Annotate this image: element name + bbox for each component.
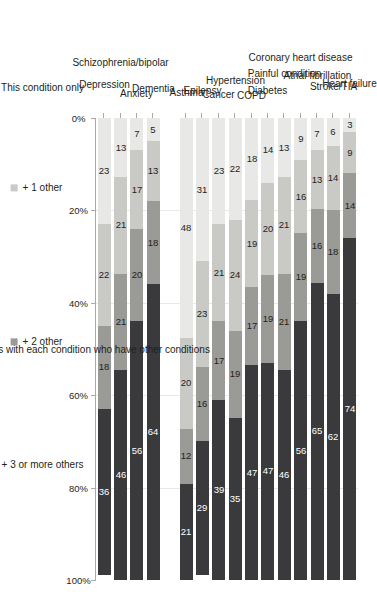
bar-value-label: 47	[246, 468, 257, 478]
bar-segment: 9	[343, 132, 356, 174]
bar-row: 6141862	[327, 118, 340, 580]
bar-value-label: 31	[197, 185, 208, 195]
legend-swatch-icon	[11, 338, 18, 345]
bar-value-label: 13	[148, 166, 159, 176]
bar-value-label: 18	[328, 247, 339, 257]
bar-segment: 19	[245, 200, 258, 287]
bar-value-label: 6	[331, 127, 336, 137]
category-tick	[349, 113, 350, 118]
bar-value-label: 29	[197, 504, 208, 514]
bar-segment: 46	[114, 370, 127, 580]
x-tick-label: 0%	[65, 113, 93, 124]
bar-segment: 48	[180, 118, 193, 338]
legend-item-2[interactable]: + 1 other	[11, 182, 63, 193]
bar-value-label: 9	[347, 148, 352, 158]
category-tick	[283, 113, 284, 118]
bar-segment: 29	[196, 441, 209, 575]
category-tick	[300, 113, 301, 118]
category-label-schizophrenia-bipolar: Schizophrenia/bipolar	[114, 0, 127, 110]
bar-value-label: 19	[230, 370, 241, 380]
bar-segment: 74	[343, 238, 356, 580]
bar-value-label: 14	[263, 146, 274, 156]
bar-row: 7131665	[311, 118, 324, 580]
bar-segment: 18	[245, 118, 258, 200]
bar-segment: 65	[311, 283, 324, 580]
bar-value-label: 46	[115, 470, 126, 480]
x-tick-label: 60%	[65, 390, 93, 401]
bar-segment: 23	[98, 118, 111, 224]
bar-segment: 18	[98, 326, 111, 409]
category-tick	[120, 113, 121, 118]
bar-segment: 13	[278, 118, 291, 177]
bar-value-label: 18	[148, 238, 159, 248]
bar-segment: 23	[212, 118, 225, 224]
bar-value-label: 19	[295, 273, 306, 283]
bar-value-label: 48	[181, 223, 192, 233]
bar-segment: 64	[147, 284, 160, 580]
bar-value-label: 22	[99, 270, 110, 280]
bar-row: 13212146	[278, 118, 291, 580]
bar-value-label: 23	[197, 310, 208, 320]
x-tick-label: 80%	[65, 482, 93, 493]
bar-value-label: 18	[246, 154, 257, 164]
legend-swatch-icon	[11, 184, 18, 191]
legend-label: This condition only	[1, 82, 84, 93]
category-tick	[103, 113, 104, 118]
legend-label: + 3 or more others	[2, 459, 84, 470]
bar-segment: 47	[245, 365, 258, 580]
bar-segment: 19	[294, 233, 307, 321]
bar-segment: 35	[229, 418, 242, 580]
bar-segment: 31	[196, 118, 209, 261]
bar-segment: 16	[294, 160, 307, 234]
bar-segment: 7	[130, 118, 143, 150]
bar-value-label: 14	[328, 173, 339, 183]
bar-segment: 13	[114, 118, 127, 177]
bar-value-label: 7	[134, 129, 139, 139]
bar-value-label: 24	[230, 270, 241, 280]
bar-segment: 16	[196, 367, 209, 441]
bar-value-label: 21	[279, 221, 290, 231]
bar-segment: 7	[311, 118, 324, 150]
bar-segment: 17	[212, 321, 225, 400]
bar-value-label: 12	[181, 452, 192, 462]
bar-value-label: 21	[214, 268, 225, 278]
bar-value-label: 13	[312, 175, 323, 185]
category-tick	[267, 113, 268, 118]
x-tick-label: 100%	[65, 575, 93, 586]
bar-segment: 9	[294, 118, 307, 160]
category-label-depression: Depression	[98, 0, 111, 110]
bar-segment: 18	[327, 210, 340, 293]
bar-row: 391474	[343, 118, 356, 580]
legend-item-3[interactable]: + 2 other	[11, 336, 63, 347]
category-label-coronary-heart-disease: Coronary heart disease	[294, 0, 307, 110]
bar-segment: 56	[130, 321, 143, 580]
bar-value-label: 22	[230, 164, 241, 174]
bar-value-label: 19	[246, 239, 257, 249]
bar-value-label: 14	[345, 201, 356, 211]
bar-value-label: 56	[295, 446, 306, 456]
legend-item-4[interactable]: + 3 or more others	[0, 459, 83, 470]
legend-item-1[interactable]: This condition only	[0, 82, 84, 93]
bar-value-label: 16	[312, 241, 323, 251]
bar-value-label: 74	[345, 404, 356, 414]
bar-segment: 22	[229, 118, 242, 220]
bar-segment: 21	[278, 177, 291, 273]
bar-segment: 17	[245, 287, 258, 365]
bar-segment: 21	[180, 484, 193, 580]
bar-value-label: 23	[99, 166, 110, 176]
bar-value-label: 46	[279, 470, 290, 480]
bar-segment: 6	[327, 118, 340, 146]
bar-value-label: 35	[230, 494, 241, 504]
bar-value-label: 19	[263, 314, 274, 324]
category-label-anxiety: Anxiety	[130, 0, 143, 110]
bar-segment: 21	[212, 224, 225, 321]
legend-label: + 2 other	[23, 336, 63, 347]
bar-segment: 12	[180, 429, 193, 484]
bar-value-label: 13	[279, 143, 290, 153]
category-label-asthma: Asthma	[180, 0, 193, 110]
bar-row: 9161956	[294, 118, 307, 580]
bar-value-label: 17	[132, 185, 143, 195]
category-label-copd: COPD	[245, 0, 258, 110]
bar-value-label: 13	[115, 143, 126, 153]
